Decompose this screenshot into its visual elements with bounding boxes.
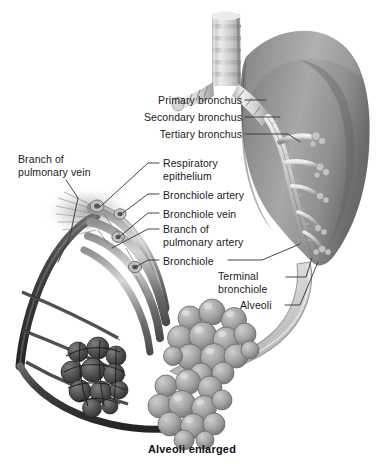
label-branch-of-pulmonary-artery: Branch of pulmonary artery: [163, 223, 267, 248]
label-secondary-bronchus: Secondary bronchus: [124, 111, 242, 124]
label-alveoli: Alveoli: [240, 299, 286, 312]
figure-caption: Alveoli enlarged: [0, 443, 384, 455]
label-branch-of-pulmonary-vein: Branch of pulmonary vein: [18, 153, 118, 178]
respiratory-anatomy-figure: Primary bronchus Secondary bronchus Tert…: [0, 0, 384, 469]
label-bronchiole-vein: Bronchiole vein: [163, 208, 263, 221]
label-respiratory-epithelium: Respiratory epithelium: [163, 157, 249, 182]
label-terminal-bronchiole: Terminal bronchiole: [218, 270, 288, 295]
trachea: [212, 12, 242, 86]
label-bronchiole: Bronchiole: [163, 255, 229, 268]
label-bronchiole-artery: Bronchiole artery: [163, 189, 263, 202]
alveolar-cluster-capillary: [61, 337, 128, 418]
label-primary-bronchus: Primary bronchus: [138, 94, 242, 107]
label-tertiary-bronchus: Tertiary bronchus: [138, 128, 242, 141]
alveolar-cluster-lower: [148, 370, 232, 451]
